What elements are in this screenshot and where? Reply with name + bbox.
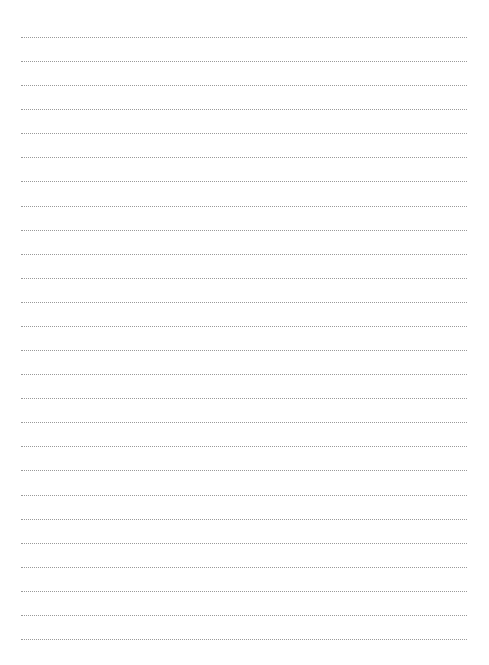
ruled-line <box>21 326 467 327</box>
ruled-line <box>21 181 467 182</box>
ruled-line <box>21 278 467 279</box>
ruled-line <box>21 350 467 351</box>
ruled-line <box>21 302 467 303</box>
ruled-line <box>21 109 467 110</box>
lined-page <box>0 0 489 665</box>
ruled-line <box>21 615 467 616</box>
ruled-line <box>21 567 467 568</box>
ruled-line <box>21 495 467 496</box>
ruled-line <box>21 374 467 375</box>
ruled-line <box>21 591 467 592</box>
ruled-line <box>21 639 467 640</box>
ruled-line <box>21 470 467 471</box>
ruled-line <box>21 398 467 399</box>
ruled-line <box>21 157 467 158</box>
ruled-line <box>21 230 467 231</box>
ruled-line <box>21 61 467 62</box>
ruled-line <box>21 519 467 520</box>
ruled-line <box>21 254 467 255</box>
ruled-line <box>21 446 467 447</box>
ruled-line <box>21 37 467 38</box>
ruled-line <box>21 422 467 423</box>
ruled-line <box>21 206 467 207</box>
ruled-line <box>21 133 467 134</box>
ruled-line <box>21 85 467 86</box>
ruled-line <box>21 543 467 544</box>
